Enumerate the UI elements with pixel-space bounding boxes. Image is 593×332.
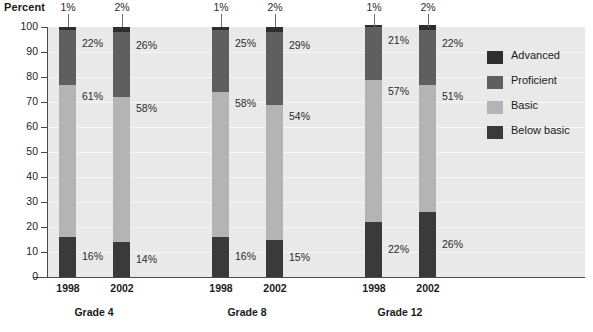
value-label-advanced: 2% bbox=[258, 1, 292, 13]
legend-label: Advanced bbox=[511, 49, 560, 61]
y-axis-tick-label: 30 bbox=[2, 195, 38, 207]
value-label-below-basic: 22% bbox=[388, 243, 409, 255]
y-axis-tick bbox=[41, 27, 48, 28]
y-axis-title: Percent bbox=[4, 1, 45, 13]
value-label-advanced: 1% bbox=[204, 1, 238, 13]
value-label-proficient: 29% bbox=[289, 39, 310, 51]
advanced-leader-line bbox=[374, 14, 375, 27]
x-axis-group-label: Grade 12 bbox=[345, 306, 455, 318]
segment-below-basic bbox=[113, 242, 130, 277]
segment-advanced bbox=[212, 27, 229, 30]
segment-basic bbox=[113, 97, 130, 242]
value-label-below-basic: 16% bbox=[235, 250, 256, 262]
segment-below-basic bbox=[419, 212, 436, 277]
x-axis-year-label: 1998 bbox=[351, 282, 397, 294]
stacked-bar-chart: Percent 1009080706050403020100 1%22%61%1… bbox=[0, 0, 593, 332]
y-axis-tick bbox=[41, 52, 48, 53]
y-axis-tick-label: 100 bbox=[2, 20, 38, 32]
segment-advanced bbox=[59, 27, 76, 30]
value-label-basic: 54% bbox=[289, 110, 310, 122]
y-axis-tick-label: 10 bbox=[2, 245, 38, 257]
value-label-basic: 58% bbox=[136, 102, 157, 114]
y-axis-tick bbox=[41, 277, 48, 278]
advanced-leader-line bbox=[221, 14, 222, 27]
segment-advanced bbox=[266, 27, 283, 32]
legend-label: Basic bbox=[511, 99, 538, 111]
bar-grade-4-2002[interactable] bbox=[113, 27, 130, 277]
legend-swatch-icon bbox=[487, 101, 503, 114]
value-label-advanced: 1% bbox=[357, 1, 391, 13]
value-label-basic: 51% bbox=[442, 90, 463, 102]
y-axis-tick bbox=[41, 252, 48, 253]
value-label-below-basic: 16% bbox=[82, 250, 103, 262]
value-label-proficient: 22% bbox=[82, 37, 103, 49]
bar-grade-8-2002[interactable] bbox=[266, 27, 283, 277]
y-axis-tick bbox=[41, 227, 48, 228]
legend-swatch-icon bbox=[487, 51, 503, 64]
segment-basic bbox=[419, 85, 436, 213]
value-label-below-basic: 15% bbox=[289, 251, 310, 263]
value-label-basic: 57% bbox=[388, 85, 409, 97]
value-label-basic: 58% bbox=[235, 97, 256, 109]
legend-label: Below basic bbox=[511, 124, 570, 136]
advanced-leader-line bbox=[428, 14, 429, 27]
advanced-leader-line bbox=[68, 14, 69, 27]
bar-grade-4-1998[interactable] bbox=[59, 27, 76, 277]
y-axis-tick-label: 20 bbox=[2, 220, 38, 232]
segment-proficient bbox=[266, 32, 283, 105]
segment-basic bbox=[212, 92, 229, 237]
x-axis-year-label: 2002 bbox=[252, 282, 298, 294]
value-label-advanced: 2% bbox=[105, 1, 139, 13]
y-axis-tick bbox=[41, 177, 48, 178]
value-label-basic: 61% bbox=[82, 90, 103, 102]
y-axis-tick bbox=[41, 127, 48, 128]
segment-advanced bbox=[113, 27, 130, 32]
segment-below-basic bbox=[59, 237, 76, 277]
bar-grade-12-1998[interactable] bbox=[365, 27, 382, 277]
value-label-below-basic: 26% bbox=[442, 238, 463, 250]
value-label-proficient: 26% bbox=[136, 39, 157, 51]
bar-grade-12-2002[interactable] bbox=[419, 27, 436, 277]
value-label-below-basic: 14% bbox=[136, 253, 157, 265]
advanced-leader-line bbox=[275, 14, 276, 27]
y-axis-tick bbox=[41, 152, 48, 153]
y-axis-tick bbox=[41, 77, 48, 78]
segment-below-basic bbox=[365, 222, 382, 277]
x-axis-year-label: 2002 bbox=[99, 282, 145, 294]
y-axis-tick-label: 60 bbox=[2, 120, 38, 132]
legend-swatch-icon bbox=[487, 76, 503, 89]
value-label-proficient: 21% bbox=[388, 34, 409, 46]
y-axis-tick-label: 40 bbox=[2, 170, 38, 182]
value-label-advanced: 2% bbox=[411, 1, 445, 13]
x-axis-line bbox=[33, 277, 585, 278]
y-axis-tick-label: 80 bbox=[2, 70, 38, 82]
x-axis-year-label: 2002 bbox=[405, 282, 451, 294]
x-axis-year-label: 1998 bbox=[198, 282, 244, 294]
y-axis-tick-label: 50 bbox=[2, 145, 38, 157]
value-label-proficient: 22% bbox=[442, 37, 463, 49]
segment-proficient bbox=[113, 32, 130, 97]
segment-proficient bbox=[59, 30, 76, 85]
y-axis-tick bbox=[41, 102, 48, 103]
segment-below-basic bbox=[212, 237, 229, 277]
x-axis-group-label: Grade 8 bbox=[192, 306, 302, 318]
advanced-leader-line bbox=[122, 14, 123, 27]
segment-below-basic bbox=[266, 240, 283, 278]
y-axis-tick-label: 0 bbox=[2, 270, 38, 282]
segment-proficient bbox=[419, 30, 436, 85]
segment-basic bbox=[365, 80, 382, 223]
value-label-advanced: 1% bbox=[51, 1, 85, 13]
y-axis-tick-label: 70 bbox=[2, 95, 38, 107]
x-axis-group-label: Grade 4 bbox=[39, 306, 149, 318]
legend-swatch-icon bbox=[487, 126, 503, 139]
y-axis-tick bbox=[41, 202, 48, 203]
value-label-proficient: 25% bbox=[235, 37, 256, 49]
y-axis-tick-label: 90 bbox=[2, 45, 38, 57]
segment-basic bbox=[266, 105, 283, 240]
segment-proficient bbox=[365, 27, 382, 80]
legend-label: Proficient bbox=[511, 74, 557, 86]
bar-grade-8-1998[interactable] bbox=[212, 27, 229, 277]
segment-basic bbox=[59, 85, 76, 238]
segment-proficient bbox=[212, 30, 229, 93]
x-axis-year-label: 1998 bbox=[45, 282, 91, 294]
